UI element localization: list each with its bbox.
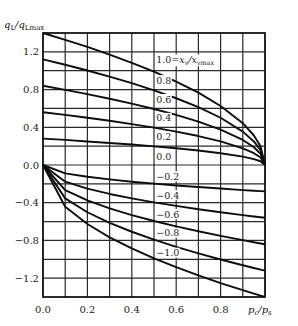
y-tick-label: −0.4 <box>15 197 39 208</box>
curve-value-label: 0.6 <box>156 94 171 105</box>
y-axis-tick-labels: 1.20.80.40.0−0.4−0.8−1.2 <box>15 46 39 283</box>
y-tick-label: −0.8 <box>15 235 39 246</box>
curve-value-label: 0.2 <box>156 131 171 142</box>
curve-value-label: −0.4 <box>156 190 179 201</box>
x-tick-label: 0.0 <box>35 304 51 315</box>
x-tick-label: 0.4 <box>124 304 140 315</box>
curve-value-label: −0.6 <box>156 209 179 220</box>
curve-value-label: −0.8 <box>156 227 179 238</box>
flow-pressure-chart: 1.20.80.40.0−0.4−0.8−1.2 0.00.20.40.60.8… <box>0 0 298 326</box>
curve-value-label: 0.0 <box>156 151 171 162</box>
x-axis-title: pc/ps <box>248 304 272 317</box>
y-axis-title: qL/qLmax <box>4 19 44 32</box>
svg-text:pc/ps: pc/ps <box>248 304 272 317</box>
x-tick-label: 0.2 <box>79 304 95 315</box>
curve-value-label: −1.0 <box>156 247 179 258</box>
curve-value-label: 0.8 <box>156 75 171 86</box>
svg-text:qL/qLmax: qL/qLmax <box>4 19 44 32</box>
y-tick-label: 1.2 <box>23 46 39 57</box>
y-tick-label: 0.8 <box>23 84 39 95</box>
y-tick-label: 0.0 <box>23 160 39 171</box>
y-tick-label: −1.2 <box>15 273 39 284</box>
x-tick-label: 0.8 <box>213 304 229 315</box>
curve-value-label: −0.2 <box>156 171 179 182</box>
curve-value-label: 0.4 <box>156 112 171 123</box>
x-axis-tick-labels: 0.00.20.40.60.8 <box>35 304 229 315</box>
x-tick-label: 0.6 <box>168 304 184 315</box>
y-tick-label: 0.4 <box>23 122 39 133</box>
